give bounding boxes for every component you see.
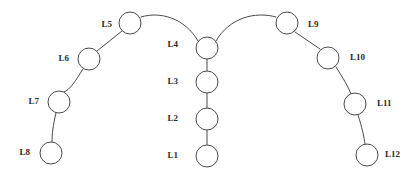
node-label-l12: L12 [385, 149, 401, 159]
link-l7-l8 [52, 113, 56, 142]
node-label-l2: L2 [167, 113, 178, 123]
node-label-l8: L8 [19, 147, 30, 157]
link-l4-l9 [216, 15, 276, 41]
node-label-l1: L1 [167, 150, 178, 160]
node-l2[interactable] [196, 108, 218, 130]
node-l10[interactable] [317, 47, 339, 69]
link-l9-l10 [295, 32, 320, 49]
node-l4[interactable] [196, 37, 218, 59]
node-label-l3: L3 [167, 76, 178, 86]
node-l12[interactable] [356, 144, 378, 166]
node-l11[interactable] [344, 93, 366, 115]
node-l7[interactable] [48, 91, 70, 113]
nodes-layer [40, 12, 378, 167]
node-label-l6: L6 [58, 53, 69, 63]
node-label-l9: L9 [308, 19, 319, 29]
link-l10-l11 [336, 67, 351, 94]
node-l6[interactable] [78, 48, 100, 70]
node-l9[interactable] [276, 12, 298, 34]
node-label-l7: L7 [28, 96, 39, 106]
node-l3[interactable] [196, 71, 218, 93]
node-label-l10: L10 [350, 52, 366, 62]
node-l5[interactable] [119, 12, 141, 34]
chain-diagram-canvas: L1L2L3L4L5L6L7L8L9L10L11L12 [0, 0, 415, 177]
link-l5-l6 [97, 31, 122, 51]
node-l1[interactable] [196, 145, 218, 167]
link-l4-l5 [141, 15, 198, 41]
node-label-l5: L5 [101, 19, 112, 29]
node-label-l11: L11 [377, 98, 392, 108]
link-l6-l7 [64, 69, 83, 92]
diagram-root: L1L2L3L4L5L6L7L8L9L10L11L12 [0, 0, 415, 177]
link-l11-l12 [358, 115, 365, 144]
node-label-l4: L4 [167, 39, 178, 49]
node-l8[interactable] [40, 142, 62, 164]
